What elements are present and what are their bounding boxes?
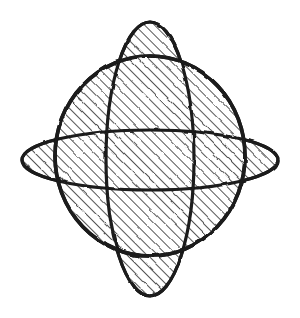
overlapping-ellipses-diagram: Overlapping hatched ellipses figure Line…	[0, 0, 300, 318]
figure-canvas: Overlapping hatched ellipses figure Line…	[0, 0, 300, 318]
